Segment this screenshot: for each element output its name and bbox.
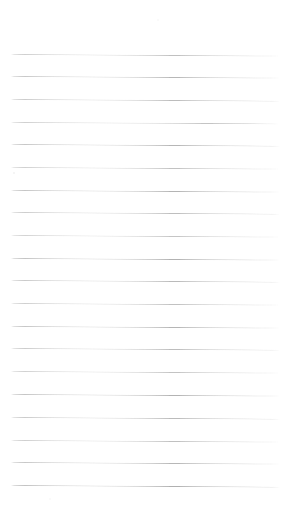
- rule-line: [11, 167, 280, 170]
- rule-line: [11, 326, 280, 329]
- speck-left-rule: [13, 172, 15, 174]
- scanned-page: [0, 0, 289, 513]
- rule-line: [11, 440, 280, 443]
- rule-line: [11, 54, 280, 57]
- rule-line: [11, 122, 280, 125]
- rule-line: [11, 394, 280, 397]
- rule-line: [11, 462, 280, 465]
- rule-line: [11, 190, 280, 193]
- top-margin: [0, 0, 289, 54]
- rule-line: [11, 258, 280, 261]
- rule-line: [11, 235, 280, 238]
- rule-line: [11, 303, 280, 306]
- rule-line: [11, 348, 280, 351]
- rule-line: [11, 212, 280, 215]
- rule-line: [11, 280, 280, 283]
- rule-line: [11, 144, 280, 147]
- rule-line: [11, 371, 280, 374]
- rule-line: [11, 99, 280, 102]
- rule-line: [11, 76, 280, 79]
- bottom-margin: [0, 485, 289, 513]
- rule-line: [11, 417, 280, 420]
